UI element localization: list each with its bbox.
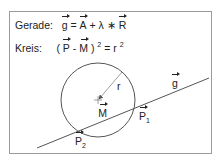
label-p1: P1 bbox=[139, 110, 150, 124]
p2-letter: P bbox=[75, 135, 82, 147]
label-p2: P2 bbox=[75, 135, 86, 149]
label-g: g bbox=[172, 77, 178, 89]
p1-subscript: 1 bbox=[146, 117, 150, 124]
label-m: M bbox=[98, 107, 107, 119]
p1-letter: P bbox=[139, 110, 146, 122]
p2-subscript: 2 bbox=[82, 142, 86, 149]
label-r: r bbox=[117, 80, 121, 92]
geometry-drawing bbox=[0, 0, 221, 163]
